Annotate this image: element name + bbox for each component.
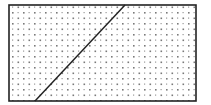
dotted-rectangle-fill [9,5,196,101]
diagram-canvas [0,0,211,105]
